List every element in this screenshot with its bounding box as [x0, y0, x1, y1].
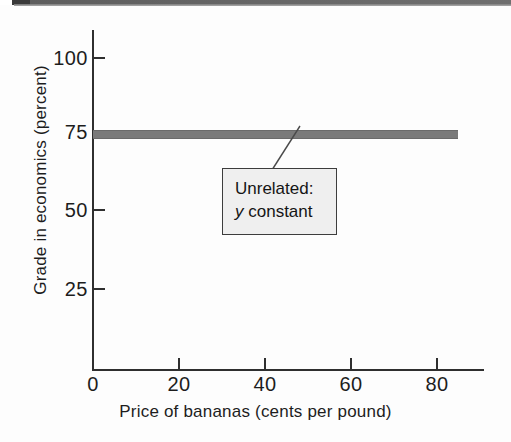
- x-tick-label-40: 40: [235, 374, 295, 394]
- y-tick-50: [94, 209, 105, 211]
- callout-line-2: y constant: [235, 201, 324, 224]
- callout-line-1: Unrelated:: [235, 178, 324, 201]
- x-axis-spine: [92, 369, 484, 371]
- y-axis-spine: [92, 30, 94, 371]
- chart-figure: 100 75 50 25 0 20 40 60 80 Price of bana…: [0, 0, 511, 442]
- x-tick-label-0: 0: [63, 374, 123, 394]
- y-axis-title: Grade in economics (percent): [31, 35, 51, 325]
- series-line-grade: [93, 130, 458, 139]
- x-tick-label-60: 60: [321, 374, 381, 394]
- scan-artifact-line: [14, 4, 511, 6]
- y-tick-25: [94, 288, 105, 290]
- callout-line-2-rest: constant: [244, 202, 313, 221]
- x-tick-60: [350, 358, 352, 369]
- x-tick-80: [436, 358, 438, 369]
- x-axis-title: Price of bananas (cents per pound): [0, 402, 511, 422]
- x-tick-label-20: 20: [149, 374, 209, 394]
- x-tick-40: [264, 358, 266, 369]
- x-tick-label-80: 80: [407, 374, 467, 394]
- callout-variable-y: y: [235, 202, 244, 221]
- unrelated-callout: Unrelated: y constant: [222, 168, 337, 235]
- x-tick-20: [178, 358, 180, 369]
- y-tick-100: [94, 57, 105, 59]
